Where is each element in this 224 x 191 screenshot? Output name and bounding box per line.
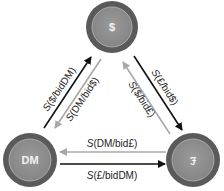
node-label-usd: $ bbox=[109, 21, 115, 33]
edge-label-dm-to-gbp: S(£/bidDM) bbox=[87, 170, 138, 181]
currency-exchange-diagram: S($/bidDM) S(DM/bid$) S(£/bid$) S($/bid£… bbox=[0, 0, 224, 191]
node-label-gbp: £ bbox=[190, 155, 196, 167]
edge-label-gbp-to-dm: S(DM/bid£) bbox=[87, 138, 138, 149]
node-usd: $ bbox=[86, 1, 138, 53]
node-dm: DM bbox=[3, 133, 57, 187]
node-label-dm: DM bbox=[21, 154, 38, 166]
node-gbp: £ bbox=[166, 133, 220, 187]
